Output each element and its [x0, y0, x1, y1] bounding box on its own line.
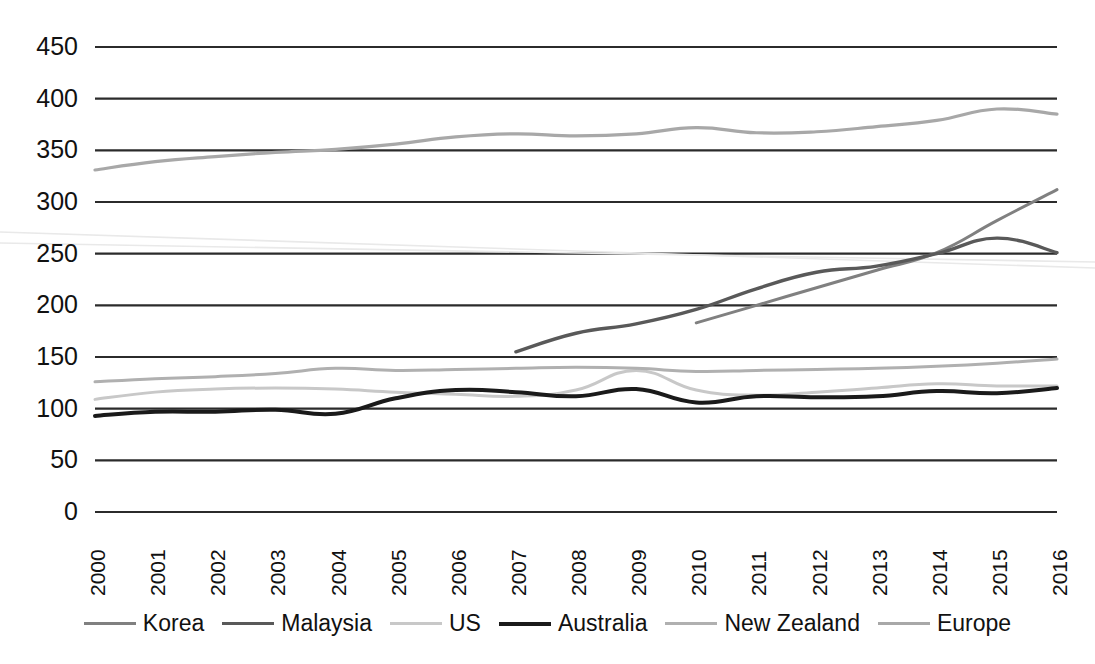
gridlines: [95, 47, 1057, 512]
y-axis-tick-label: 300: [8, 189, 78, 214]
x-axis-tick-label: 2006: [448, 549, 469, 596]
y-axis-tick-label: 100: [8, 396, 78, 421]
x-axis-tick-label: 2009: [628, 549, 649, 596]
x-axis-tick-label: 2003: [267, 549, 288, 596]
legend-line-swatch: [222, 622, 274, 625]
y-axis-tick-label: 250: [8, 241, 78, 266]
x-axis-tick-label: 2005: [388, 549, 409, 596]
legend-label: Malaysia: [281, 612, 372, 635]
legend-item-us[interactable]: US: [390, 612, 481, 635]
series-lines: [95, 109, 1057, 416]
scan-crease-artifact: [0, 232, 1095, 268]
legend-item-malaysia[interactable]: Malaysia: [222, 612, 372, 635]
legend-label: Europe: [937, 612, 1011, 635]
legend-item-new-zealand[interactable]: New Zealand: [665, 612, 860, 635]
legend-label: Korea: [143, 612, 204, 635]
x-axis-tick-label: 2008: [568, 549, 589, 596]
series-line-new-zealand: [95, 359, 1057, 382]
y-axis-tick-label: 0: [8, 499, 78, 524]
legend-label: Australia: [558, 612, 647, 635]
x-axis-tick-label: 2002: [207, 549, 228, 596]
x-axis-tick-label: 2015: [989, 549, 1010, 596]
legend-label: US: [449, 612, 481, 635]
legend-item-australia[interactable]: Australia: [499, 612, 647, 635]
y-axis-tick-label: 150: [8, 344, 78, 369]
legend-line-swatch: [84, 622, 136, 625]
legend-line-swatch: [665, 622, 717, 625]
y-axis-tick-label: 450: [8, 34, 78, 59]
x-axis-tick-label: 2016: [1049, 549, 1070, 596]
legend-item-europe[interactable]: Europe: [878, 612, 1011, 635]
x-axis-tick-label: 2004: [328, 549, 349, 596]
x-axis-tick-label: 2010: [688, 549, 709, 596]
x-axis-tick-label: 2013: [869, 549, 890, 596]
legend-line-swatch: [878, 622, 930, 625]
y-axis-tick-label: 50: [8, 447, 78, 472]
x-axis-tick-label: 2007: [508, 549, 529, 596]
x-axis-tick-label: 2012: [809, 549, 830, 596]
y-axis-tick-label: 350: [8, 137, 78, 162]
series-line-australia: [95, 388, 1057, 416]
x-axis-tick-label: 2014: [929, 549, 950, 596]
x-axis-tick-label: 2011: [748, 551, 769, 596]
x-axis-tick-label: 2000: [87, 549, 108, 596]
legend-label: New Zealand: [724, 612, 860, 635]
legend-line-swatch: [499, 622, 551, 626]
x-axis-tick-label: 2001: [147, 549, 168, 596]
legend-line-swatch: [390, 622, 442, 625]
legend-item-korea[interactable]: Korea: [84, 612, 204, 635]
chart-legend: KoreaMalaysiaUSAustraliaNew ZealandEurop…: [0, 612, 1095, 635]
series-line-europe: [95, 109, 1057, 170]
y-axis-tick-label: 400: [8, 86, 78, 111]
line-chart: 050100150200250300350400450 200020012002…: [0, 0, 1095, 664]
y-axis-tick-label: 200: [8, 292, 78, 317]
